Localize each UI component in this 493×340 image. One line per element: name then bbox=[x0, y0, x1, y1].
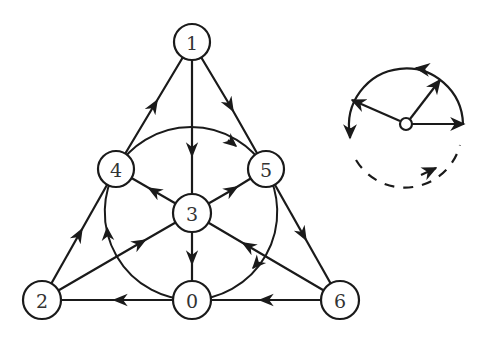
arrow-icon bbox=[228, 140, 236, 146]
node-1: 1 bbox=[174, 24, 210, 60]
edge-1-5 bbox=[192, 42, 266, 169]
node-2: 2 bbox=[23, 281, 61, 319]
node-3: 3 bbox=[173, 194, 211, 232]
edge-2-4 bbox=[42, 169, 116, 300]
node-5: 5 bbox=[248, 151, 284, 187]
node-0-label: 0 bbox=[186, 290, 198, 312]
node-2-label: 2 bbox=[36, 290, 48, 312]
arrow-icon bbox=[107, 228, 108, 236]
arrow-icon bbox=[421, 168, 436, 175]
edge-4-1 bbox=[116, 42, 192, 169]
node-6: 6 bbox=[321, 281, 359, 319]
legend-spoke-upper-right bbox=[410, 80, 440, 119]
straight-edges bbox=[42, 42, 340, 300]
orientation-legend bbox=[349, 68, 464, 188]
node-4: 4 bbox=[98, 151, 134, 187]
legend-hub bbox=[400, 118, 412, 130]
edge-6-3 bbox=[192, 213, 340, 300]
node-0: 0 bbox=[173, 281, 211, 319]
node-1-label: 1 bbox=[186, 32, 198, 54]
edge-2-3 bbox=[42, 213, 192, 300]
edge-5-6 bbox=[266, 169, 340, 300]
fano-plane-diagram: 1 4 5 3 2 0 6 bbox=[0, 0, 493, 340]
node-3-label: 3 bbox=[186, 203, 198, 225]
legend-spoke-left bbox=[352, 100, 400, 121]
node-6-label: 6 bbox=[334, 290, 346, 312]
node-4-label: 4 bbox=[110, 159, 122, 181]
legend-dashed-arc bbox=[356, 145, 460, 188]
node-5-label: 5 bbox=[260, 159, 272, 181]
